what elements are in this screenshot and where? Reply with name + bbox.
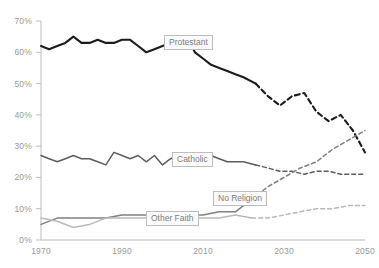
series-label-catholic: Catholic (172, 152, 213, 167)
x-axis-tick-label: 1990 (102, 246, 142, 256)
x-axis-tick-label: 1970 (21, 246, 61, 256)
series-line-catholic-historical (41, 152, 256, 165)
series-label-no-religion: No Religion (213, 191, 267, 206)
y-axis-tick-label: 60% (4, 47, 32, 57)
y-axis-tick-label: 50% (4, 79, 32, 89)
series-label-other-faith: Other Faith (146, 211, 199, 226)
series-line-protestant-projected (256, 84, 365, 153)
y-axis-tick-label: 30% (4, 141, 32, 151)
x-axis-tick-label: 2050 (345, 246, 379, 256)
y-axis-tick-label: 20% (4, 172, 32, 182)
series-line-catholic-projected (256, 165, 365, 174)
y-axis-tick-label: 40% (4, 110, 32, 120)
series-line-other-faith-projected (252, 206, 365, 219)
y-axis-tick-label: 10% (4, 204, 32, 214)
series-label-protestant: Protestant (164, 35, 213, 50)
y-axis-tick-label: 0% (4, 235, 32, 245)
series-line-no-religion-projected (252, 131, 365, 200)
series-line-protestant-historical (41, 37, 256, 84)
y-axis-tick-label: 70% (4, 16, 32, 26)
x-axis-tick-label: 2030 (264, 246, 304, 256)
x-axis-tick-label: 2010 (183, 246, 223, 256)
